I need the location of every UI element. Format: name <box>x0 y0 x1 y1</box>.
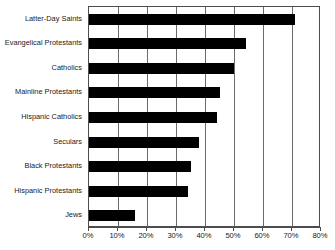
x-tick-mark <box>88 227 89 231</box>
x-tick-label: 0% <box>83 231 94 241</box>
x-tick-mark <box>175 227 176 231</box>
bar <box>89 112 217 123</box>
bar-row <box>89 56 319 81</box>
x-tick-label: 60% <box>254 231 269 241</box>
x-tick-mark <box>262 227 263 231</box>
category-label: Jews <box>0 210 82 219</box>
category-label: Hispanic Catholics <box>0 112 82 121</box>
bar-row <box>89 32 319 57</box>
x-tick-label: 30% <box>167 231 182 241</box>
x-tick-mark <box>204 227 205 231</box>
x-tick-label: 70% <box>283 231 298 241</box>
x-tick-label: 10% <box>109 231 124 241</box>
x-tick-mark <box>233 227 234 231</box>
category-label: Latter-Day Saints <box>0 14 82 23</box>
x-tick-mark <box>291 227 292 231</box>
x-tick-mark <box>146 227 147 231</box>
bars-group <box>89 7 319 226</box>
x-axis-tick-labels: 0%10%20%30%40%50%60%70%80% <box>0 231 335 245</box>
bar <box>89 38 246 49</box>
category-label: Mainline Protestants <box>0 87 82 96</box>
bar-row <box>89 203 319 228</box>
bar-row <box>89 105 319 130</box>
bar <box>89 186 188 197</box>
bar-chart: Latter-Day SaintsEvangelical Protestants… <box>0 0 335 250</box>
x-tick-label: 40% <box>196 231 211 241</box>
category-label: Evangelical Protestants <box>0 38 82 47</box>
category-label: Black Protestants <box>0 161 82 170</box>
bar-row <box>89 130 319 155</box>
bar <box>89 161 191 172</box>
bar <box>89 14 295 25</box>
plot-area <box>88 6 320 227</box>
bar-row <box>89 81 319 106</box>
x-tick-label: 80% <box>312 231 327 241</box>
category-label: Hispanic Protestants <box>0 186 82 195</box>
x-tick-mark <box>117 227 118 231</box>
bar-row <box>89 7 319 32</box>
bar-row <box>89 179 319 204</box>
x-tick-label: 50% <box>225 231 240 241</box>
bar <box>89 137 199 148</box>
bar <box>89 87 220 98</box>
x-tick-label: 20% <box>138 231 153 241</box>
x-tick-mark <box>320 227 321 231</box>
bar <box>89 63 234 74</box>
bar <box>89 210 135 221</box>
category-label: Seculars <box>0 137 82 146</box>
bar-row <box>89 154 319 179</box>
category-label: Catholics <box>0 63 82 72</box>
category-axis-labels: Latter-Day SaintsEvangelical Protestants… <box>0 6 85 227</box>
